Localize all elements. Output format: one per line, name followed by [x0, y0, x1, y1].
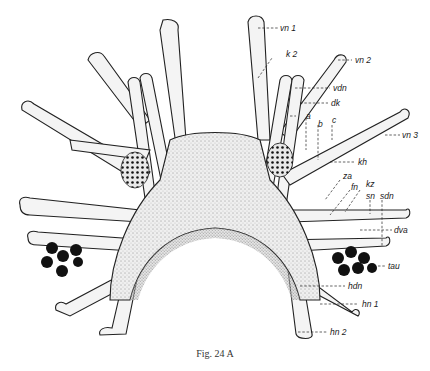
label-hn1: hn 1: [362, 300, 379, 309]
left-dotted-organ: [121, 152, 149, 188]
label-k2: k 2: [286, 50, 297, 59]
left-cluster: [41, 242, 83, 277]
right-dotted-organ: [267, 143, 293, 177]
label-sdn: sdn: [380, 192, 394, 201]
label-c: c: [332, 116, 336, 125]
right-cluster: [332, 246, 377, 276]
figure-caption: Fig. 24 A: [0, 348, 430, 359]
label-b: b: [318, 120, 323, 129]
label-dk: dk: [331, 99, 340, 108]
label-kh: kh: [358, 158, 367, 167]
label-fn: fn: [351, 183, 358, 192]
label-hdn: hdn: [348, 282, 362, 291]
label-vn2: vn 2: [355, 56, 371, 65]
label-vn1: vn 1: [280, 24, 296, 33]
label-kz: kz: [366, 180, 375, 189]
label-a: a: [306, 112, 311, 121]
right-vessels: [248, 16, 410, 339]
label-vdn: vdn: [333, 84, 347, 93]
label-sn: sn: [366, 192, 375, 201]
label-hn2: hn 2: [330, 328, 347, 337]
label-dva: dva: [394, 226, 408, 235]
label-vn3: vn 3: [402, 131, 418, 140]
label-za: za: [343, 172, 352, 181]
label-tau: tau: [388, 262, 400, 271]
